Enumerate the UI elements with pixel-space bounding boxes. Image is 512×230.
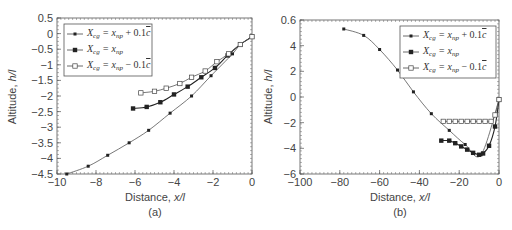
y-tick-label: −3.5	[31, 137, 53, 149]
y-tick-label: −1.5	[31, 74, 53, 86]
y-axis-label-b: Altitude, h/l	[262, 69, 274, 124]
series-open-square	[441, 97, 501, 123]
y-tick-label: 0	[290, 91, 296, 103]
y-tick-label: −1	[40, 59, 53, 71]
y-tick-label: −2	[283, 117, 296, 129]
panel-label-b: (b)	[393, 206, 406, 218]
x-axis-label-b: Distance, x/l	[370, 191, 430, 203]
y-tick-label: 4	[290, 40, 296, 52]
chart-panel-b: −100−80−60−40−2000.6420−2−4−6Xcg = xnp +…	[281, 14, 502, 188]
y-tick-label: 2	[290, 65, 296, 77]
y-tick-label: 0.6	[281, 14, 296, 26]
x-tick-label: −8	[90, 176, 103, 188]
y-tick-label: 0	[47, 28, 53, 40]
y-tick-label: −4.5	[31, 168, 53, 180]
x-axis-label-a: Distance, x/l	[125, 191, 185, 203]
legend: Xcg = xnp + 0.1cXcg = xnpXcg = xnp − 0.1…	[64, 24, 152, 76]
y-tick-label: −0.5	[31, 43, 53, 55]
chart-panel-a: −10−8−6−4−200.50−0.5−1−1.5−2−2.5−3−3.5−4…	[31, 12, 255, 188]
x-tick-label: −4	[168, 176, 181, 188]
panel-label-a: (a)	[148, 206, 161, 218]
y-tick-label: −2.5	[31, 106, 53, 118]
x-tick-label: 0	[249, 176, 255, 188]
x-tick-label: −60	[370, 176, 389, 188]
x-tick-label: −40	[410, 176, 429, 188]
x-tick-label: −20	[450, 176, 469, 188]
y-tick-label: −4	[40, 152, 53, 164]
x-tick-label: 0	[496, 176, 502, 188]
y-tick-label: −3	[40, 121, 53, 133]
y-tick-label: −6	[283, 168, 296, 180]
x-tick-label: −6	[129, 176, 142, 188]
series-filled-square	[439, 97, 501, 157]
y-tick-label: −4	[283, 142, 296, 154]
x-tick-label: −80	[330, 176, 349, 188]
x-tick-label: −2	[207, 176, 220, 188]
y-tick-label: 0.5	[38, 12, 53, 24]
legend: Xcg = xnp + 0.1cXcg = xnpXcg = xnp − 0.1…	[400, 26, 496, 78]
figure: −10−8−6−4−200.50−0.5−1−1.5−2−2.5−3−3.5−4…	[0, 0, 512, 230]
y-axis-label-a: Altitude, h/l	[6, 69, 18, 124]
y-tick-label: −2	[40, 90, 53, 102]
series-open-square	[139, 35, 255, 96]
